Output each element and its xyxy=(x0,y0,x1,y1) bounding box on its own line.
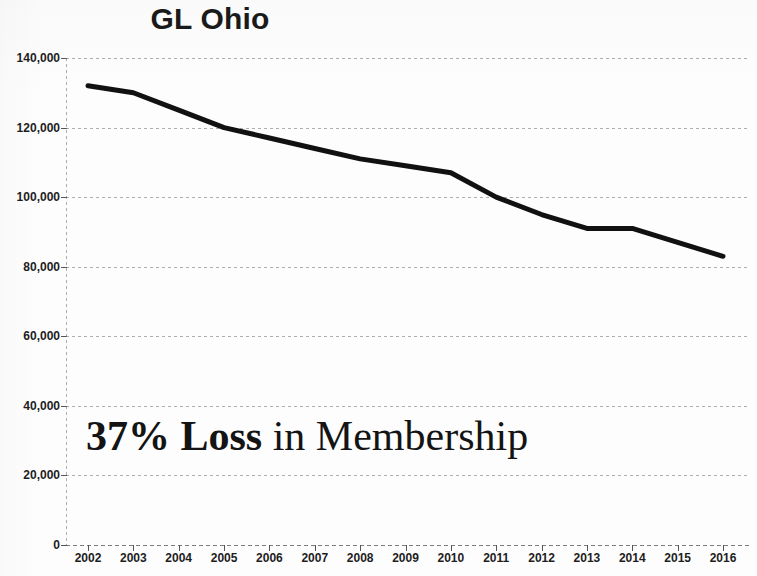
x-tick-label-2004: 2004 xyxy=(154,551,204,565)
x-tick-label-2014: 2014 xyxy=(607,551,657,565)
x-tick-label-2010: 2010 xyxy=(426,551,476,565)
x-tick-label-2008: 2008 xyxy=(335,551,385,565)
loss-callout-normal: in Membership xyxy=(262,413,528,459)
x-axis-tick-labels: 2002200320042005200620072008200920102011… xyxy=(66,551,749,573)
y-tick-label-140000: 140,000 xyxy=(0,51,60,65)
chart-title: GL Ohio xyxy=(0,2,420,36)
x-tick-label-2005: 2005 xyxy=(199,551,249,565)
x-tick-label-2006: 2006 xyxy=(244,551,294,565)
loss-callout-annotation: 37% Loss in Membership xyxy=(86,412,528,460)
gridline-0 xyxy=(66,545,749,546)
y-tick-label-120000: 120,000 xyxy=(0,121,60,135)
x-tick-label-2003: 2003 xyxy=(108,551,158,565)
y-tick-label-80000: 80,000 xyxy=(0,260,60,274)
y-tick-label-20000: 20,000 xyxy=(0,468,60,482)
x-tick-label-2015: 2015 xyxy=(653,551,703,565)
x-tick-label-2016: 2016 xyxy=(698,551,748,565)
chart-container: GL Ohio 020,00040,00060,00080,000100,000… xyxy=(0,0,757,576)
y-tick-mark-0 xyxy=(61,545,67,546)
x-tick-label-2002: 2002 xyxy=(63,551,113,565)
x-tick-label-2012: 2012 xyxy=(517,551,567,565)
series-line-gl-ohio xyxy=(88,86,723,256)
y-tick-label-0: 0 xyxy=(0,538,60,552)
plot-area xyxy=(66,58,749,545)
y-tick-label-60000: 60,000 xyxy=(0,329,60,343)
y-axis-tick-labels: 020,00040,00060,00080,000100,000120,0001… xyxy=(0,58,60,545)
loss-callout-strong: 37% Loss xyxy=(86,413,262,459)
y-tick-label-40000: 40,000 xyxy=(0,399,60,413)
x-tick-label-2007: 2007 xyxy=(290,551,340,565)
series-line-chart xyxy=(66,58,749,545)
x-tick-label-2009: 2009 xyxy=(381,551,431,565)
x-tick-label-2013: 2013 xyxy=(562,551,612,565)
x-tick-label-2011: 2011 xyxy=(471,551,521,565)
y-tick-label-100000: 100,000 xyxy=(0,190,60,204)
